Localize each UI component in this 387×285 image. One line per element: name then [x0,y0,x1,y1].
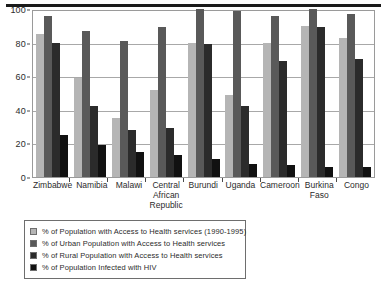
x-axis-label-line: Burundi [186,180,221,190]
y-axis-tick-label: 20 [16,139,26,149]
legend-swatch-icon [30,264,37,271]
x-axis-label-line: Zimbabwe [33,180,72,190]
chart-legend: % of Population with Access to Health se… [24,220,246,279]
x-axis-label-line: Burkina [302,180,337,190]
bar [263,43,271,177]
x-axis-label: Zimbabwe [32,180,73,210]
bar [287,165,295,177]
bar-group [109,11,147,177]
x-axis-label: Namibia [73,180,110,210]
bar [212,159,220,177]
bar [271,16,279,177]
x-axis-label: Burundi [185,180,222,210]
legend-item-label: % of Rural Population with Access to Hea… [42,251,223,260]
y-axis-tick-mark [27,77,30,78]
bar [82,31,90,177]
x-axis-label-line: Republic [149,200,184,210]
bar [325,167,333,177]
x-axis-label-line: Malawi [111,180,146,190]
bar [317,27,325,177]
chart-page: 020406080100 ZimbabweNamibiaMalawiCentra… [0,0,387,285]
bar [174,155,182,177]
x-axis-label-line: Namibia [74,180,109,190]
bar [166,128,174,177]
bars-layer [33,11,374,177]
bar [279,61,287,177]
x-axis-label-line: African [149,190,184,200]
bar [225,95,233,177]
x-axis-labels: ZimbabweNamibiaMalawiCentralAfricanRepub… [32,180,375,210]
bar [150,90,158,177]
legend-swatch-icon [30,228,37,235]
x-axis-label-line: Faso [302,190,337,200]
y-axis-tick-label: 80 [16,39,26,49]
bar-group [298,11,336,177]
y-axis-tick-mark [27,110,30,111]
bar [128,130,136,177]
legend-item-label: % of Urban Population with Access to Hea… [42,239,225,248]
bar [196,9,204,177]
bar [241,106,249,177]
x-axis-label: Malawi [110,180,147,210]
bar-group [222,11,260,177]
y-axis-tick-mark [27,144,30,145]
legend-item-label: % of Population with Access to Health se… [42,227,246,236]
x-axis-label: Uganda [222,180,259,210]
x-axis-label-line: Central [149,180,184,190]
legend-swatch-icon [30,252,37,259]
bar [301,26,309,177]
x-axis-label: Cameroon [259,180,301,210]
bar [339,38,347,177]
plot-area [32,10,375,178]
bar [44,16,52,177]
bar [355,59,363,177]
y-axis-tick-mark [27,10,30,11]
legend-swatch-icon [30,240,37,247]
x-axis-label-line: Cameroon [260,180,300,190]
bar [309,9,317,177]
legend-item: % of Population Infected with HIV [30,261,240,273]
y-axis-tick-label: 40 [16,106,26,116]
y-axis-tick-label: 0 [21,173,26,183]
bar [136,152,144,177]
x-axis-label: Congo [338,180,375,210]
chart-plot-wrapper: 020406080100 ZimbabweNamibiaMalawiCentra… [0,10,387,192]
bar-group [33,11,71,177]
bar [36,34,44,177]
bar-group [147,11,185,177]
legend-item-label: % of Population Infected with HIV [42,263,157,272]
bar [249,164,257,177]
x-axis-label-line: Uganda [223,180,258,190]
top-divider-rule [6,4,381,7]
bar-group [185,11,223,177]
legend-item: % of Urban Population with Access to Hea… [30,237,240,249]
bar [60,135,68,177]
bar [74,78,82,177]
y-axis-tick-mark [27,178,30,179]
bar-group [71,11,109,177]
bar [52,43,60,177]
bar-group [260,11,298,177]
y-axis-tick-label: 60 [16,72,26,82]
x-axis-label: CentralAfricanRepublic [148,180,185,210]
bar [112,118,120,177]
legend-item: % of Population with Access to Health se… [30,225,240,237]
y-axis-tick-mark [27,43,30,44]
bar-group [336,11,374,177]
y-axis: 020406080100 [0,10,30,178]
bar [158,27,166,177]
x-axis-label-line: Congo [339,180,374,190]
bar [204,44,212,177]
bar [98,145,106,177]
bar [120,41,128,177]
bar [363,167,371,177]
bar [90,106,98,177]
bar [188,43,196,177]
bar [233,11,241,177]
x-axis-label: BurkinaFaso [301,180,338,210]
y-axis-tick-label: 100 [10,5,26,15]
bar [347,14,355,177]
legend-item: % of Rural Population with Access to Hea… [30,249,240,261]
